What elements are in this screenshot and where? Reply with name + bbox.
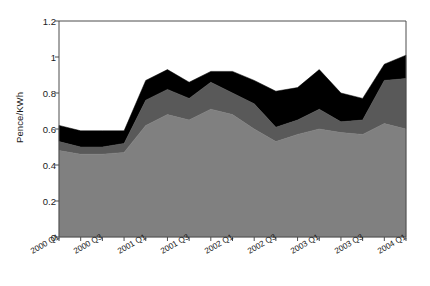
area-chart: Pence/KWh 00.20.40.60.811.2 2000 Q12000 … [0,0,430,286]
plot-area [0,0,430,286]
